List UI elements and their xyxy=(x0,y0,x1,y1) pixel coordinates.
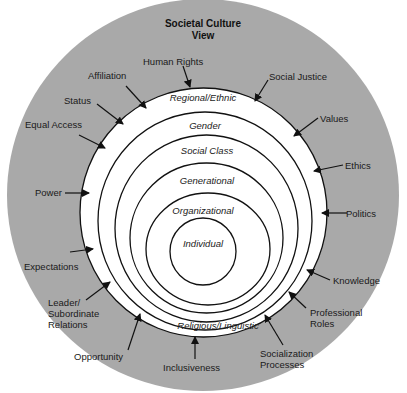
title-line-1: Societal Culture xyxy=(165,18,241,30)
label-line: Socialization xyxy=(260,348,313,359)
label-professional-roles: Professional Roles xyxy=(310,307,362,329)
label-socialization-processes: Socialization Processes xyxy=(260,348,313,370)
label-line: Leader/ xyxy=(48,297,99,308)
label-line: Relations xyxy=(48,319,99,330)
label-opportunity: Opportunity xyxy=(74,351,123,362)
ring-label-religious-linguistic: Religious/Linguistic xyxy=(177,320,258,331)
diagram-title: Societal Culture View xyxy=(165,18,241,42)
label-ethics: Ethics xyxy=(345,160,371,171)
label-line: Professional xyxy=(310,307,362,318)
ring-label-generational: Generational xyxy=(180,175,234,186)
label-affiliation: Affiliation xyxy=(88,70,126,81)
label-human-rights: Human Rights xyxy=(143,56,203,67)
label-status: Status xyxy=(64,95,91,106)
label-line: Roles xyxy=(310,318,362,329)
label-line: Processes xyxy=(260,359,313,370)
label-leader-subordinate-relations: Leader/ Subordinate Relations xyxy=(48,297,99,330)
label-line: Subordinate xyxy=(48,308,99,319)
label-politics: Politics xyxy=(346,208,376,219)
ring-label-social-class: Social Class xyxy=(181,145,233,156)
ring-label-gender: Gender xyxy=(189,120,221,131)
title-line-2: View xyxy=(165,30,241,42)
label-expectations: Expectations xyxy=(24,261,78,272)
label-values: Values xyxy=(320,113,348,124)
ring-label-organizational: Organizational xyxy=(172,205,233,216)
ring-label-regional-ethnic: Regional/Ethnic xyxy=(170,92,237,103)
label-power: Power xyxy=(35,187,62,198)
label-social-justice: Social Justice xyxy=(269,71,327,82)
label-inclusiveness: Inclusiveness xyxy=(163,362,220,373)
label-equal-access: Equal Access xyxy=(25,119,82,130)
label-knowledge: Knowledge xyxy=(333,275,380,286)
ring-label-individual: Individual xyxy=(183,238,223,249)
